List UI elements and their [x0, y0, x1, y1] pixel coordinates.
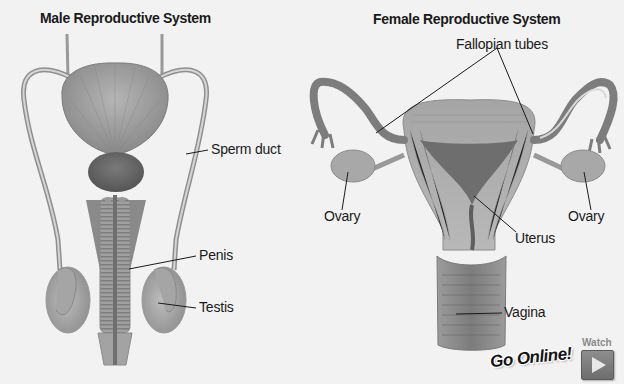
male-title: Male Reproductive System — [40, 10, 211, 26]
female-title: Female Reproductive System — [373, 11, 561, 27]
label-vagina: Vagina — [504, 304, 545, 320]
label-ovary-right: Ovary — [568, 208, 604, 224]
anatomy-illustration — [0, 0, 624, 384]
diagram-stage: Male Reproductive System Female Reproduc… — [0, 0, 624, 384]
label-sperm-duct: Sperm duct — [211, 141, 281, 157]
label-penis: Penis — [199, 247, 233, 263]
play-icon — [592, 357, 606, 373]
label-ovary-left: Ovary — [324, 208, 360, 224]
label-uterus: Uterus — [515, 230, 555, 246]
label-testis: Testis — [199, 299, 234, 315]
watch-label: Watch — [582, 337, 612, 348]
female-illustration — [312, 48, 614, 350]
label-fallopian-tubes: Fallopian tubes — [456, 36, 548, 52]
watch-video-button[interactable] — [581, 350, 614, 380]
male-illustration — [23, 34, 208, 365]
